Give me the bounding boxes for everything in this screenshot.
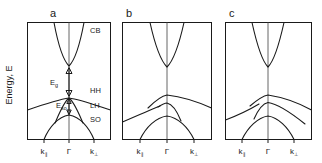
panel-b-xlabel-kperp: k⊥ xyxy=(190,147,198,157)
panel-c-xlabel-kpar: k∥ xyxy=(239,147,246,158)
band-structure-figure: Energy, E a Eg Eso xyxy=(0,0,322,163)
panel-b-letter: b xyxy=(126,7,132,19)
panel-a-label-cb: CB xyxy=(90,26,100,35)
panel-a-eg-label: Eg xyxy=(50,78,58,88)
panel-c: c k∥ Γ k⊥ xyxy=(226,7,312,158)
panel-a-xlabel-kperp: k⊥ xyxy=(90,147,98,157)
panel-a-letter: a xyxy=(50,7,57,19)
panel-a: a Eg Eso CB HH LH xyxy=(28,7,111,158)
panel-b-lh-curve xyxy=(158,103,181,121)
panel-a-label-so: SO xyxy=(90,115,101,124)
panel-c-xlabel-gamma: Γ xyxy=(266,147,271,156)
panel-b-hh-curve xyxy=(148,95,212,108)
panel-c-hh-left-branch xyxy=(226,104,260,120)
panel-b-xlabel-kpar: k∥ xyxy=(137,147,144,158)
panel-b-hh-left-branch xyxy=(123,106,161,122)
panel-c-xlabel-kperp: k⊥ xyxy=(290,147,298,157)
panel-b: b k∥ Γ k⊥ xyxy=(123,7,212,158)
panel-a-label-hh: HH xyxy=(90,86,101,95)
panel-a-xlabel-gamma: Γ xyxy=(67,147,72,156)
panel-a-xlabel-kpar: k∥ xyxy=(41,147,48,158)
panel-c-letter: c xyxy=(229,7,235,19)
panel-c-frame xyxy=(226,23,312,140)
panel-a-label-lh: LH xyxy=(90,101,100,110)
panel-b-xlabel-gamma: Γ xyxy=(165,147,170,156)
y-axis-label: Energy, E xyxy=(4,66,14,105)
figure-canvas: Energy, E a Eg Eso xyxy=(0,0,322,163)
